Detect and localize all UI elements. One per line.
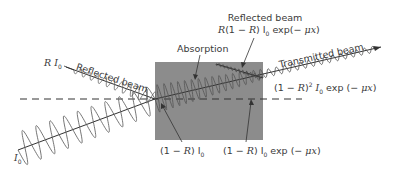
exit-formula: (1 − R) I0 exp (− μx) [223,146,321,158]
label-part: ) [373,82,377,93]
absorption-label: Absorption [177,44,228,54]
label-part: exp(− [269,24,304,35]
incident-intensity-label: I0 [14,153,22,165]
label-part: R [247,145,254,156]
label-part: μx [361,82,373,93]
label-part: μx [304,24,316,35]
diagram-canvas: R I0 Reflected beam Absorption Reflected… [0,0,397,176]
reflected-front-intensity-label: R I0 [44,58,62,70]
label-part: 0 [200,151,204,158]
label-part: μx [305,145,317,156]
label-part: R I [44,57,58,68]
label-part: ) I [254,145,264,156]
label-part: exp (− [323,82,361,93]
label-part: (1 − [225,24,249,35]
label-part: (1 − [274,82,298,93]
label-part: R [249,24,256,35]
label-part: ) [317,145,321,156]
r-i0-leader [64,66,74,70]
label-part: 0 [58,63,62,70]
label-part: exp (− [267,145,305,156]
absorbing-slab [155,62,263,140]
label-part: 0 [18,158,22,165]
label-part: (1 − [160,145,184,156]
reflected-back-leader [243,38,254,65]
label-part: ) I [191,145,201,156]
label-part: (1 − [223,145,247,156]
reflected-back-formula: R(1 − R) I0 exp(− μx) [218,25,320,37]
label-part: ) [316,24,320,35]
transmitted-formula: (1 − R)2 I0 exp (− μx) [274,82,376,95]
label-part: R [184,145,191,156]
label-part: R [298,82,305,93]
entry-formula: (1 − R) I0 [160,146,204,158]
transmitted-arrowhead-icon [373,46,381,51]
reflected-back-caption: Reflected beam [226,13,304,23]
label-part: ) I [256,24,266,35]
